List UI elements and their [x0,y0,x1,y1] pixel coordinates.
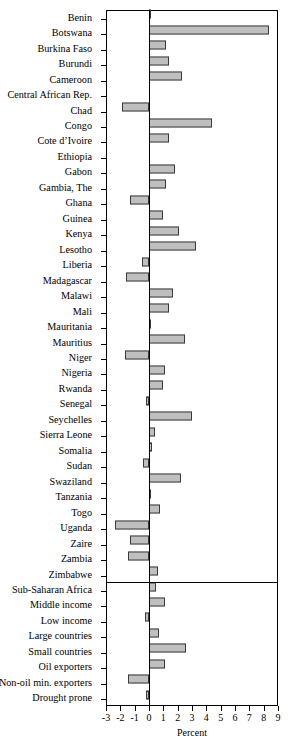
x-axis-tick [264,706,265,711]
x-axis-tick [235,706,236,711]
x-axis-title: Percent [106,727,278,738]
x-axis-tick-label: 9 [268,712,288,723]
x-axis-tick [221,706,222,711]
bar-chart-figure: BeninBotswanaBurkina FasoBurundiCameroon… [0,0,292,746]
x-axis-tick [106,706,107,711]
x-axis-tick [135,706,136,711]
x-axis-tick [249,706,250,711]
x-axis-tick [178,706,179,711]
value-axis: -3-2-10123456789 [0,0,292,746]
x-axis-tick [163,706,164,711]
x-axis-tick [192,706,193,711]
x-axis-tick [206,706,207,711]
x-axis-tick [120,706,121,711]
x-axis-tick [149,706,150,711]
x-axis-tick [278,706,279,711]
